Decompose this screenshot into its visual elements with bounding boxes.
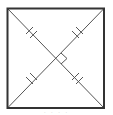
tick-marks-bottom-left bbox=[26, 73, 37, 84]
right-angle-marker bbox=[61, 53, 67, 64]
tick-marks-bottom-right bbox=[72, 73, 83, 84]
diagram-caption: · · · · bbox=[0, 109, 113, 115]
square-diagonals-diagram bbox=[0, 0, 113, 115]
tick-marks-top-right bbox=[72, 27, 83, 38]
